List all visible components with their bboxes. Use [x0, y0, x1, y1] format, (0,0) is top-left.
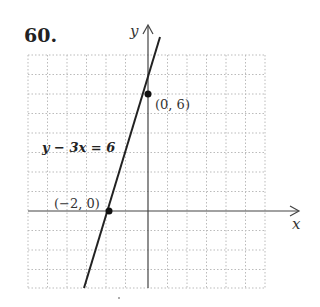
stray-dot: [118, 297, 120, 299]
problem-number: 60.: [24, 24, 57, 46]
point-0-6: [145, 91, 152, 98]
graph-canvas: 60. y x (0, 6) (−2, 0) y − 3x = 6: [0, 0, 320, 307]
x-axis-label: x: [292, 215, 301, 233]
y-axis-label: y: [129, 22, 139, 40]
point-label-0-6: (0, 6): [155, 97, 190, 112]
point-label-neg2-0: (−2, 0): [54, 196, 100, 211]
grid: [28, 55, 265, 288]
point-neg2-0: [106, 208, 113, 215]
equation-label: y − 3x = 6: [41, 140, 115, 155]
